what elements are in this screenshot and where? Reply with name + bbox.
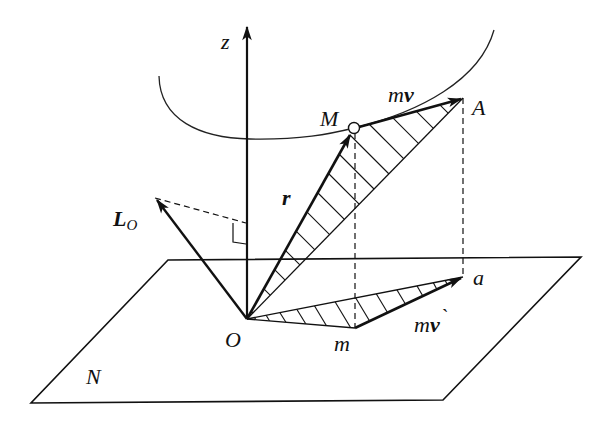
plane-label: N — [85, 364, 102, 389]
projected-momentum-label-m: m — [414, 312, 430, 337]
point-m-projection-label: m — [334, 331, 350, 356]
point-m-marker — [349, 123, 360, 134]
angular-momentum-diagram: z M mv A r LO O a mv` m N — [0, 0, 605, 433]
point-a-projection-label: a — [473, 265, 484, 290]
diagram-canvas: z M mv A r LO O a mv` m N — [0, 0, 605, 433]
perpendicular-dashed-line — [155, 198, 246, 223]
origin-label: O — [225, 327, 241, 352]
projected-momentum-label: mv` — [414, 304, 448, 337]
angular-momentum-label-l: L — [112, 206, 126, 231]
position-vector-r — [247, 135, 350, 319]
point-m-label: M — [319, 106, 340, 131]
point-a-label: A — [470, 95, 486, 120]
momentum-label-m: m — [388, 82, 404, 107]
position-vector-label: r — [282, 185, 291, 210]
angular-momentum-label: LO — [112, 206, 137, 233]
plane-n — [31, 257, 581, 403]
momentum-label-v: v — [404, 82, 414, 107]
om-projection-edge — [247, 319, 355, 328]
projected-momentum-label-prime: ` — [440, 304, 448, 329]
z-axis-label: z — [220, 29, 230, 54]
right-angle-marker — [233, 223, 246, 244]
angular-momentum-label-sub: O — [126, 217, 137, 233]
momentum-label: mv — [388, 82, 414, 107]
projected-momentum-label-v: v — [430, 312, 440, 337]
